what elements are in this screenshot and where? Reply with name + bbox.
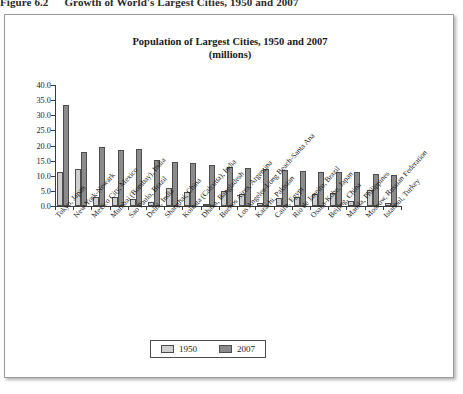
x-axis-tick-mark <box>292 206 293 210</box>
legend-item-2007: 2007 <box>219 344 255 354</box>
figure-caption-text: Growth of World's Largest Cities, 1950 a… <box>64 0 298 8</box>
x-axis-tick-mark <box>401 206 402 210</box>
x-axis-tick-mark <box>73 206 74 210</box>
x-axis-tick-labels: Tokyo, JapanNew York-NewarkMexico City, … <box>5 15 455 379</box>
x-axis-tick-mark <box>237 206 238 210</box>
figure-panel: Population of Largest Cities, 1950 and 2… <box>4 14 454 378</box>
legend-label-2007: 2007 <box>237 344 255 354</box>
x-axis-tick-mark <box>255 206 256 210</box>
x-axis-tick-mark <box>182 206 183 210</box>
x-axis-tick-mark <box>128 206 129 210</box>
x-axis-tick-mark <box>310 206 311 210</box>
legend-swatch-1950 <box>161 345 174 353</box>
x-axis-tick-mark <box>219 206 220 210</box>
x-axis-tick-mark <box>110 206 111 210</box>
x-axis-tick-mark <box>346 206 347 210</box>
legend-label-1950: 1950 <box>179 344 197 354</box>
x-axis-tick-mark <box>91 206 92 210</box>
x-axis-tick-mark <box>383 206 384 210</box>
x-axis-tick-mark <box>55 206 56 210</box>
x-axis-tick-mark <box>365 206 366 210</box>
figure-number: Figure 6.2 <box>0 0 48 8</box>
x-axis-tick-mark <box>328 206 329 210</box>
x-axis-tick-mark <box>274 206 275 210</box>
x-axis-tick-mark <box>201 206 202 210</box>
chart-legend: 1950 2007 <box>150 340 266 358</box>
figure-caption: Figure 6.2Growth of World's Largest Citi… <box>0 0 463 12</box>
legend-swatch-2007 <box>219 345 232 353</box>
x-axis-tick-mark <box>164 206 165 210</box>
chart-plot-area: 0.05.010.015.020.025.030.035.040.0 Tokyo… <box>5 15 455 379</box>
legend-item-1950: 1950 <box>161 344 197 354</box>
x-axis-tick-mark <box>146 206 147 210</box>
